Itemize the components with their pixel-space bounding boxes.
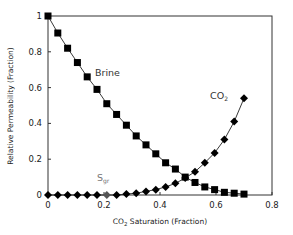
co2-data-point bbox=[132, 189, 140, 197]
co2-data-point bbox=[83, 191, 91, 199]
co2-data-point bbox=[122, 190, 130, 198]
y-tick-label: 0.2 bbox=[28, 154, 42, 164]
brine-data-point bbox=[162, 159, 169, 166]
brine-data-point bbox=[74, 59, 81, 66]
co2-label: CO2 bbox=[210, 90, 228, 102]
y-axis-title: Relative Permeability (Fraction) bbox=[6, 47, 15, 165]
co2-data-point bbox=[142, 187, 150, 195]
x-tick-label: 0.4 bbox=[153, 200, 167, 210]
brine-data-point bbox=[123, 122, 130, 129]
brine-label: Brine bbox=[95, 67, 120, 78]
co2-data-point bbox=[113, 191, 121, 199]
brine-data-point bbox=[94, 86, 101, 93]
brine-data-point bbox=[143, 141, 150, 148]
brine-data-point bbox=[231, 190, 238, 197]
brine-data-point bbox=[172, 166, 179, 173]
sgr-label: Sgr bbox=[97, 172, 110, 185]
series-markers bbox=[44, 13, 248, 200]
x-tick-label: 0.8 bbox=[265, 200, 279, 210]
brine-data-point bbox=[211, 186, 218, 193]
plot-frame bbox=[48, 16, 272, 195]
brine-data-point bbox=[45, 13, 52, 20]
co2-data-point bbox=[171, 179, 179, 187]
series-lines bbox=[48, 16, 244, 195]
axis-ticks: 00.20.40.60.800.20.40.60.81 bbox=[28, 11, 278, 210]
co2-data-point bbox=[162, 183, 170, 191]
co2-data-point bbox=[240, 94, 248, 102]
co2-data-point bbox=[220, 136, 228, 144]
brine-data-point bbox=[192, 179, 199, 186]
y-tick-label: 1 bbox=[37, 11, 42, 21]
brine-data-point bbox=[241, 191, 248, 198]
brine-data-point bbox=[113, 111, 120, 118]
x-tick-label: 0.2 bbox=[97, 200, 111, 210]
co2-data-point bbox=[54, 191, 62, 199]
brine-data-point bbox=[201, 183, 208, 190]
brine-data-point bbox=[221, 189, 228, 196]
y-tick-label: 0.4 bbox=[28, 118, 42, 128]
y-tick-label: 0.6 bbox=[28, 83, 42, 93]
brine-curve bbox=[48, 16, 244, 194]
co2-data-point bbox=[64, 191, 72, 199]
co2-data-point bbox=[152, 186, 160, 194]
x-axis-title: CO2 Saturation (Fraction) bbox=[113, 217, 207, 227]
x-axis-title-main: CO bbox=[113, 217, 124, 226]
co2-data-point bbox=[73, 191, 81, 199]
brine-data-point bbox=[54, 30, 61, 37]
x-tick-label: 0.6 bbox=[209, 200, 223, 210]
co2-label-main: CO bbox=[210, 90, 224, 101]
brine-data-point bbox=[103, 100, 110, 107]
brine-data-point bbox=[133, 132, 140, 139]
co2-data-point bbox=[93, 191, 101, 199]
co2-data-point bbox=[230, 118, 238, 126]
x-tick-label: 0 bbox=[45, 200, 50, 210]
brine-data-point bbox=[152, 150, 159, 157]
plot-area-border bbox=[48, 16, 272, 195]
co2-label-sub: 2 bbox=[224, 95, 228, 102]
y-tick-label: 0.8 bbox=[28, 47, 42, 57]
co2-data-point bbox=[44, 191, 52, 199]
brine-data-point bbox=[64, 45, 71, 52]
y-tick-label: 0 bbox=[37, 190, 42, 200]
sgr-label-sub: gr bbox=[103, 177, 110, 185]
brine-data-point bbox=[84, 73, 91, 80]
relative-permeability-chart: 00.20.40.60.800.20.40.60.81 Brine CO2 Sg… bbox=[0, 0, 293, 235]
x-axis-title-rest: Saturation (Fraction) bbox=[127, 217, 207, 226]
